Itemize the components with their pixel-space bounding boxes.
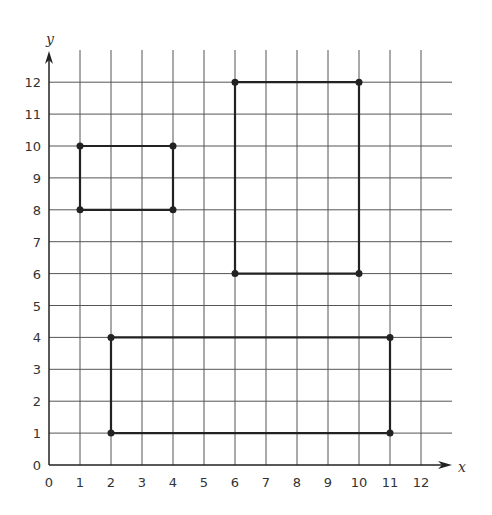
- wide-rectangle: [108, 334, 394, 437]
- tick-labels: 01234567891011120123456789101112: [24, 75, 429, 490]
- y-tick-label: 8: [33, 203, 41, 218]
- vertex-point: [170, 143, 177, 150]
- x-axis-label: x: [458, 459, 466, 475]
- x-tick-label: 9: [324, 475, 332, 490]
- x-tick-label: 8: [293, 475, 301, 490]
- vertex-point: [387, 334, 394, 341]
- x-tick-label: 10: [351, 475, 368, 490]
- y-tick-label: 12: [24, 75, 41, 90]
- x-tick-label: 7: [262, 475, 270, 490]
- y-tick-label: 10: [24, 139, 41, 154]
- x-tick-label: 3: [138, 475, 146, 490]
- x-tick-label: 11: [382, 475, 399, 490]
- vertex-point: [77, 143, 84, 150]
- y-tick-label: 6: [33, 267, 41, 282]
- y-tick-label: 1: [33, 426, 41, 441]
- vertex-point: [232, 79, 239, 86]
- vertex-point: [232, 270, 239, 277]
- x-tick-label: 6: [231, 475, 239, 490]
- coordinate-grid: 01234567891011120123456789101112 x y: [0, 0, 492, 515]
- x-tick-label: 5: [200, 475, 208, 490]
- y-tick-label: 7: [33, 235, 41, 250]
- x-tick-label: 2: [107, 475, 115, 490]
- x-tick-label: 12: [413, 475, 430, 490]
- vertex-point: [108, 430, 115, 437]
- rectangle-outline: [111, 337, 390, 433]
- y-tick-label: 4: [33, 330, 41, 345]
- x-tick-label: 4: [169, 475, 177, 490]
- vertex-point: [356, 79, 363, 86]
- y-tick-label: 5: [33, 299, 41, 314]
- y-tick-label: 9: [33, 171, 41, 186]
- y-tick-label: 2: [33, 394, 41, 409]
- x-tick-label: 0: [45, 475, 53, 490]
- y-tick-label: 11: [24, 107, 41, 122]
- y-axis-label: y: [45, 31, 55, 47]
- y-tick-label: 3: [33, 362, 41, 377]
- vertex-point: [108, 334, 115, 341]
- vertex-point: [170, 206, 177, 213]
- vertex-point: [77, 206, 84, 213]
- x-tick-label: 1: [76, 475, 84, 490]
- vertex-point: [356, 270, 363, 277]
- y-tick-label: 0: [33, 458, 41, 473]
- grid-lines: [49, 50, 452, 465]
- vertex-point: [387, 430, 394, 437]
